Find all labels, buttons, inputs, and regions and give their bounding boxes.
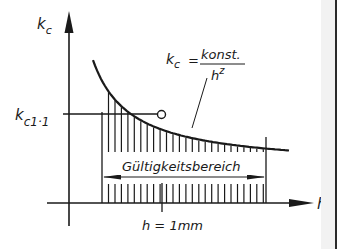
kc-diagram: kc kc1·1 kc = konst. hz Gültigkeitsberei…	[0, 0, 338, 249]
formula: kc = konst. hz	[166, 47, 245, 83]
validity-range-label: Gültigkeitsbereich	[122, 159, 241, 174]
arrowhead-left-icon	[103, 175, 121, 180]
reference-value-label: kc1·1	[15, 106, 49, 129]
formula-denominator: hz	[211, 65, 225, 83]
y-axis-arrow-icon	[65, 11, 74, 33]
validity-range-hatching-upper	[109, 92, 264, 152]
validity-range-double-arrow	[103, 175, 265, 180]
formula-leader-line	[192, 78, 207, 128]
reference-point-marker	[158, 111, 166, 119]
x-axis	[47, 199, 314, 207]
kc-curve	[93, 60, 289, 150]
reference-point-label: h = 1mm	[142, 218, 203, 233]
y-axis	[65, 11, 74, 226]
x-axis-arrow-icon	[289, 199, 314, 207]
y-axis-label: kc	[37, 15, 52, 37]
page-edge-line	[335, 0, 337, 249]
validity-range-hatching-lower	[109, 184, 264, 203]
page-edge-band	[321, 0, 335, 249]
svg-text:=: =	[188, 53, 199, 68]
formula-numerator: konst.	[201, 47, 241, 62]
svg-text:kc: kc	[166, 51, 180, 71]
arrowhead-right-icon	[247, 175, 265, 180]
